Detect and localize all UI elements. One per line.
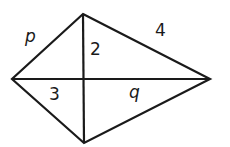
label-side-4: 4 (155, 22, 166, 39)
label-q: q (129, 84, 140, 101)
kite-diagram (0, 0, 230, 147)
label-segment-2: 2 (90, 41, 101, 58)
label-p: p (25, 28, 36, 45)
label-segment-3: 3 (49, 86, 60, 103)
